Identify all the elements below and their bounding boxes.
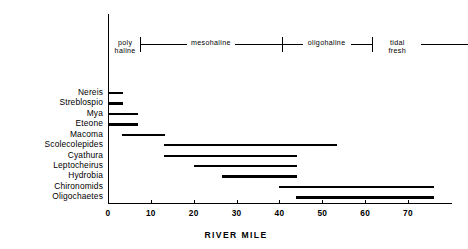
species-label-mya: Mya bbox=[87, 108, 103, 118]
x-axis-tick-label: 30 bbox=[224, 208, 250, 218]
x-axis-tick bbox=[108, 200, 109, 204]
zone-label-poly-haline: poly haline bbox=[102, 39, 148, 55]
zone-divider-tick bbox=[372, 37, 373, 52]
zone-rule-segment bbox=[282, 44, 303, 45]
species-range-bar bbox=[122, 134, 165, 136]
zone-rule-segment bbox=[140, 44, 187, 45]
species-label-chironomids: Chironomids bbox=[54, 181, 103, 191]
species-label-eteone: Eteone bbox=[76, 118, 103, 128]
species-label-macoma: Macoma bbox=[70, 129, 103, 139]
species-label-streblospio: Streblospio bbox=[59, 97, 103, 107]
species-range-bar bbox=[194, 165, 298, 167]
species-range-bar bbox=[108, 92, 123, 94]
zone-rule-segment bbox=[235, 44, 282, 45]
salinity-zone-band: poly halinemesohalineoligohalinetidal fr… bbox=[0, 0, 468, 70]
zone-label-tidal-fresh: tidal fresh bbox=[374, 39, 420, 55]
x-axis-tick bbox=[237, 200, 238, 204]
zone-rule-segment bbox=[421, 44, 468, 45]
y-axis-line bbox=[108, 14, 109, 203]
x-axis-tick bbox=[194, 200, 195, 204]
zone-divider-tick bbox=[140, 37, 141, 52]
species-range-bar bbox=[164, 155, 298, 157]
zone-divider-tick bbox=[282, 37, 283, 52]
x-axis-tick bbox=[322, 200, 323, 204]
species-label-leptocheirus: Leptocheirus bbox=[53, 160, 103, 170]
species-range-bar bbox=[108, 123, 138, 125]
species-range-bar bbox=[108, 113, 138, 115]
x-axis-title: RIVER MILE bbox=[204, 230, 267, 240]
x-axis-tick-label: 40 bbox=[266, 208, 292, 218]
x-axis-tick-label: 20 bbox=[181, 208, 207, 218]
x-axis-tick-label: 50 bbox=[309, 208, 335, 218]
zone-label-oligohaline: oligohaline bbox=[304, 39, 350, 47]
species-range-bar bbox=[164, 144, 337, 146]
species-distribution-chart: poly halinemesohalineoligohalinetidal fr… bbox=[0, 0, 468, 249]
species-label-nereis: Nereis bbox=[78, 87, 103, 97]
x-axis-tick bbox=[151, 200, 152, 204]
species-label-cyathura: Cyathura bbox=[68, 150, 103, 160]
x-axis-tick-label: 0 bbox=[95, 208, 121, 218]
species-range-bar bbox=[279, 186, 433, 188]
zone-rule-segment bbox=[351, 44, 372, 45]
x-axis-tick bbox=[408, 200, 409, 204]
x-axis-tick-label: 70 bbox=[395, 208, 421, 218]
species-range-bar bbox=[222, 175, 298, 177]
zone-label-mesohaline: mesohaline bbox=[188, 39, 234, 47]
species-label-oligochaetes: Oligochaetes bbox=[52, 191, 103, 201]
species-label-scolecolepides: Scolecolepides bbox=[45, 139, 103, 149]
x-axis-tick-label: 10 bbox=[138, 208, 164, 218]
species-range-bar bbox=[108, 102, 123, 104]
species-range-bar bbox=[296, 196, 434, 198]
x-axis-tick bbox=[365, 200, 366, 204]
x-axis-tick bbox=[279, 200, 280, 204]
species-label-hydrobia: Hydrobia bbox=[68, 170, 103, 180]
x-axis-tick-label: 60 bbox=[352, 208, 378, 218]
